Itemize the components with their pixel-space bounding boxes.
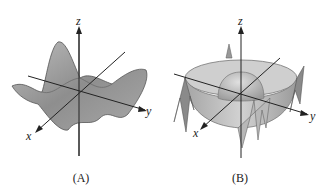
- surface-plot-b: [162, 0, 324, 196]
- x-axis-label: x: [193, 126, 198, 141]
- y-axis-label: y: [310, 109, 315, 124]
- y-axis-label: y: [146, 104, 151, 119]
- panel-b: z y x (B): [162, 0, 324, 196]
- caption-b: (B): [220, 171, 260, 186]
- z-axis-label: z: [238, 14, 243, 29]
- surface-plot-a: [0, 0, 162, 196]
- x-axis-label: x: [26, 129, 31, 144]
- z-axis-label: z: [76, 14, 81, 29]
- caption-a: (A): [61, 171, 101, 186]
- panel-a: z y x (A): [0, 0, 162, 196]
